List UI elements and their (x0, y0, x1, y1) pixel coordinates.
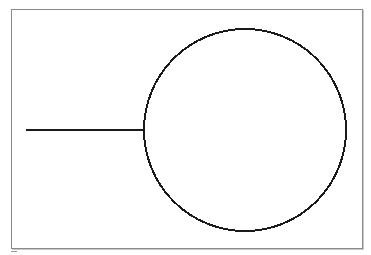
main-circle (144, 29, 346, 231)
caption-fragment (11, 251, 17, 255)
diagram-canvas (0, 0, 371, 255)
